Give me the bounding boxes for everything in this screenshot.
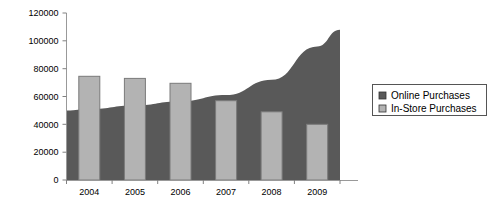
y-tick-label: 100000 <box>28 36 58 46</box>
y-tick-label: 80000 <box>33 64 58 74</box>
chart-legend: Online Purchases In-Store Purchases <box>373 85 487 116</box>
legend-swatch-in-store-purchases <box>379 105 386 112</box>
bar-2006 <box>170 83 191 180</box>
x-tick-label-2007: 2007 <box>216 187 236 197</box>
legend-item-online-purchases[interactable]: Online Purchases <box>379 90 470 101</box>
y-tick-label: 120000 <box>28 8 58 18</box>
y-tick-label: 20000 <box>33 147 58 157</box>
y-tick-label: 0 <box>53 175 58 185</box>
x-tick-label-2005: 2005 <box>125 187 145 197</box>
bar-2005 <box>124 78 145 180</box>
legend-label-in-store-purchases: In-Store Purchases <box>391 103 477 114</box>
legend-item-in-store-purchases[interactable]: In-Store Purchases <box>379 103 477 114</box>
bar-2007 <box>216 101 237 180</box>
bar-2004 <box>79 76 100 180</box>
purchases-combo-chart: 020000400006000080000100000120000 200420… <box>0 0 493 214</box>
y-tick-label: 60000 <box>33 92 58 102</box>
legend-swatch-online-purchases <box>379 92 386 99</box>
bar-2008 <box>261 112 282 180</box>
y-tick-label: 40000 <box>33 120 58 130</box>
x-tick-label-2006: 2006 <box>170 187 190 197</box>
x-tick-label-2008: 2008 <box>262 187 282 197</box>
x-tick-label-2009: 2009 <box>307 187 327 197</box>
bar-2009 <box>307 124 328 180</box>
x-tick-label-2004: 2004 <box>79 187 99 197</box>
chart-container: 020000400006000080000100000120000 200420… <box>0 0 493 214</box>
legend-label-online-purchases: Online Purchases <box>391 90 470 101</box>
